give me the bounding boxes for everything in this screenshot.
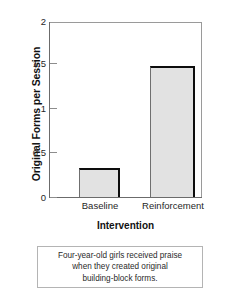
y-tick-mark-1-5 bbox=[50, 63, 57, 64]
caption-box: Four-year-old girls received praise when… bbox=[37, 246, 203, 288]
y-tick-mark-0 bbox=[50, 197, 57, 198]
bar-reinforcement bbox=[150, 66, 195, 197]
y-tick-label-1: 1 bbox=[2, 104, 46, 114]
y-tick-mark-0-5 bbox=[50, 152, 57, 153]
y-tick-mark-1 bbox=[50, 108, 57, 109]
caption-text: Four-year-old girls received praise when… bbox=[52, 250, 188, 285]
y-tick-label-0-5: 0.5 bbox=[2, 148, 46, 158]
caption-line-2: when they created original bbox=[58, 261, 182, 273]
bar-baseline bbox=[79, 168, 120, 197]
y-tick-label-0: 0 bbox=[2, 193, 46, 203]
x-tick-label-baseline: Baseline bbox=[69, 200, 131, 211]
y-tick-label-1-5: 1.5 bbox=[2, 59, 46, 69]
y-tick-label-2: 2 bbox=[2, 17, 46, 27]
y-axis-line bbox=[49, 22, 50, 198]
x-tick-label-reinforcement: Reinforcement bbox=[133, 200, 213, 211]
x-axis-title: Intervention bbox=[49, 220, 202, 231]
caption-line-3: building-block forms. bbox=[58, 273, 182, 285]
x-axis-line bbox=[49, 197, 202, 198]
bar-chart-figure: Original Forms per Session 0 0.5 1 1.5 2… bbox=[0, 0, 239, 299]
caption-line-1: Four-year-old girls received praise bbox=[58, 250, 182, 262]
